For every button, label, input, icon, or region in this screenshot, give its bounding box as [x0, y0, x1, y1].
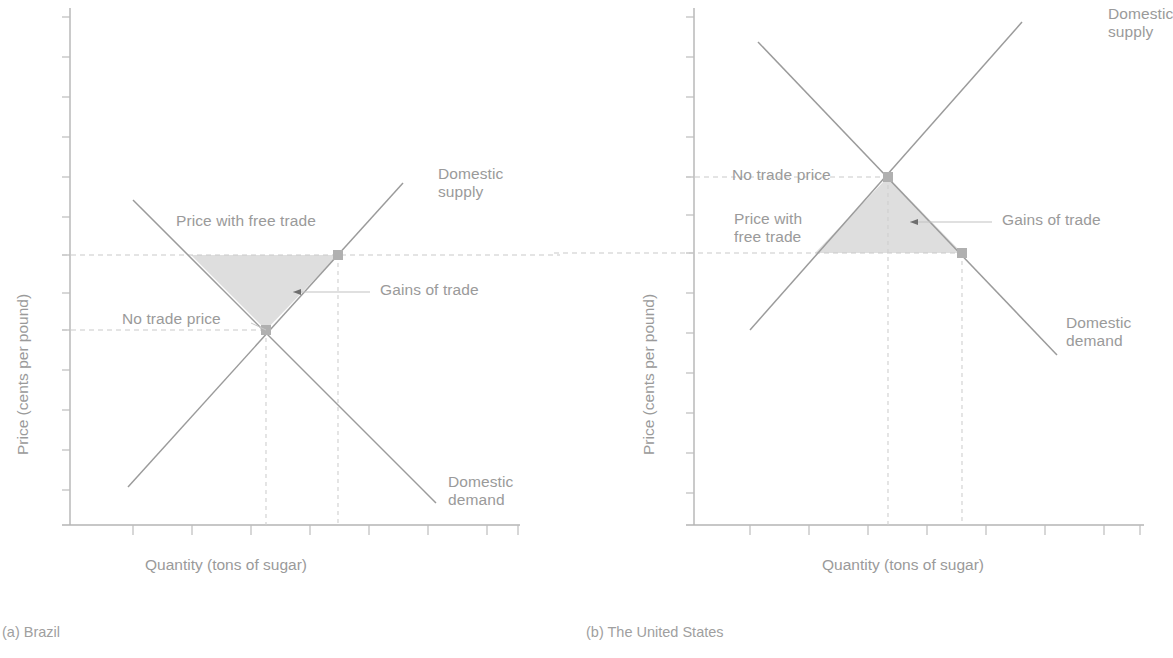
panel-caption-united-states: (b) The United States: [586, 624, 724, 640]
free-trade-point: [333, 250, 343, 260]
panel-brazil: Price (cents per pound) Quantity (tons o…: [0, 0, 583, 658]
x-axis-ticks: [133, 525, 518, 535]
free-trade-point: [957, 248, 967, 258]
price-with-free-trade-label: Price with free trade: [176, 212, 316, 230]
y-axis-ticks: [686, 17, 694, 493]
price-with-free-trade-label: Price with free trade: [734, 210, 802, 246]
y-axis-ticks: [62, 17, 70, 490]
domestic-supply-label: Domestic supply: [438, 165, 503, 201]
x-axis-ticks: [750, 525, 1140, 535]
domestic-supply-label: Domestic supply: [1108, 5, 1173, 41]
chart-svg-united-states: [584, 0, 1167, 600]
y-axis-title: Price (cents per pound): [14, 294, 32, 455]
gains-of-trade-label: Gains of trade: [380, 281, 479, 299]
chart-svg-brazil: [0, 0, 583, 600]
x-axis-title: Quantity (tons of sugar): [822, 556, 984, 574]
no-trade-price-label: No trade price: [122, 310, 221, 328]
panel-united-states: Price (cents per pound) Quantity (tons o…: [584, 0, 1167, 658]
domestic-demand-label: Domestic demand: [448, 473, 513, 509]
y-axis-title: Price (cents per pound): [640, 294, 658, 455]
no-trade-price-label: No trade price: [732, 166, 831, 184]
domestic-demand-curve: [758, 42, 1057, 355]
x-axis-title: Quantity (tons of sugar): [145, 556, 307, 574]
domestic-demand-label: Domestic demand: [1066, 314, 1131, 350]
domestic-demand-curve: [133, 200, 436, 503]
gains-of-trade-label: Gains of trade: [1002, 211, 1101, 229]
panel-caption-brazil: (a) Brazil: [2, 624, 60, 640]
no-trade-equilibrium-point: [883, 172, 893, 182]
